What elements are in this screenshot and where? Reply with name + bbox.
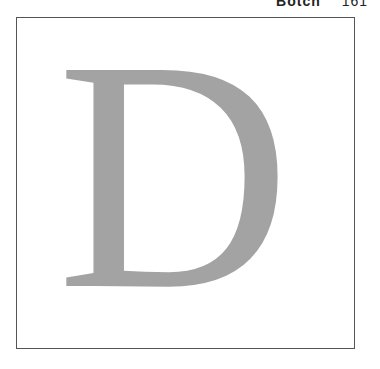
dropcap-letter: D: [57, 10, 291, 340]
dropcap-frame: D: [16, 17, 355, 349]
page-number: 161: [342, 0, 368, 9]
